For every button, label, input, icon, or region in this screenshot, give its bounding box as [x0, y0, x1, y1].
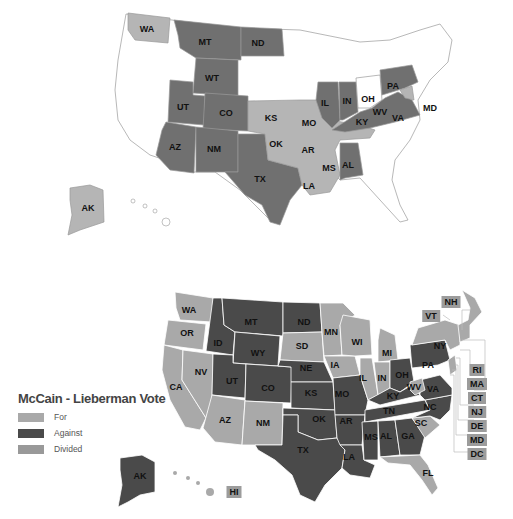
box-nh: NH [442, 296, 461, 308]
top-label-la: LA [303, 181, 315, 191]
top-label-md: MD [423, 103, 437, 113]
top-label-va: VA [392, 113, 404, 123]
top-label-al: AL [342, 160, 354, 170]
top-label-wa: WA [140, 24, 155, 34]
label-ut: UT [226, 376, 238, 386]
label-wa: WA [182, 305, 197, 315]
top-label-ak: AK [82, 203, 95, 213]
top-label-ks: KS [265, 113, 278, 123]
label-sd: SD [296, 341, 309, 351]
box-ma: MA [467, 378, 487, 390]
top-label-ut: UT [177, 102, 189, 112]
top-label-nd: ND [252, 38, 265, 48]
top-label-in: IN [343, 96, 352, 106]
label-wi: WI [352, 337, 363, 347]
label-sc: SC [415, 418, 428, 428]
label-ny: NY [434, 341, 447, 351]
box-md: MD [467, 434, 487, 446]
label-ca: CA [170, 382, 183, 392]
box-dc: DC [468, 448, 487, 460]
top-label-ms: MS [322, 163, 336, 173]
label-al: AL [380, 431, 392, 441]
legend-item-divided: Divided [18, 444, 165, 454]
box-vt: VT [422, 310, 440, 322]
label-wy: WY [251, 348, 266, 358]
label-ak: AK [134, 471, 147, 481]
legend-item-for: For [18, 412, 165, 422]
legend-label-for: For [54, 412, 67, 422]
top-label-ky: KY [356, 117, 369, 127]
legend-label-against: Against [54, 428, 82, 438]
label-il: IL [359, 373, 367, 383]
label-va: VA [427, 384, 439, 394]
top-label-pa: PA [387, 81, 399, 91]
label-mo: MO [335, 389, 350, 399]
box-nj: NJ [468, 406, 486, 418]
top-label-oh: OH [361, 94, 375, 104]
legend-title: McCain - Lieberman Vote [18, 391, 165, 406]
label-nc: NC [424, 402, 437, 412]
box-hi: HI [227, 486, 242, 498]
legend-swatch-against [18, 429, 44, 438]
top-label-wv: WV [373, 107, 388, 117]
label-id: ID [214, 338, 223, 348]
label-tx: TX [297, 445, 309, 455]
top-label-il: IL [321, 98, 329, 108]
top-label-tx: TX [254, 174, 266, 184]
top-label-mt: MT [199, 37, 212, 47]
label-wv: WV [407, 382, 422, 392]
box-ct: CT [468, 392, 486, 404]
label-or: OR [180, 328, 194, 338]
legend-swatch-for [18, 413, 44, 422]
label-nd: ND [298, 317, 311, 327]
top-label-mo: MO [302, 118, 317, 128]
label-ks: KS [305, 388, 318, 398]
label-co: CO [261, 383, 275, 393]
legend-label-divided: Divided [54, 444, 82, 454]
label-nv: NV [195, 367, 208, 377]
top-label-wy: WT [205, 73, 219, 83]
label-ok: OK [312, 414, 326, 424]
label-nm: NM [256, 418, 270, 428]
top-label-co: CO [219, 108, 233, 118]
label-ky: KY [387, 391, 400, 401]
label-ia: IA [331, 360, 340, 370]
label-pa: PA [422, 360, 434, 370]
top-label-az: AZ [169, 142, 181, 152]
top-label-nm: NM [207, 144, 221, 154]
label-az: AZ [219, 415, 231, 425]
label-ar: AR [340, 416, 353, 426]
top-us-map: WA MT ND WT UT CO AZ NM TX KS OK MO AR L… [0, 0, 513, 260]
top-label-ar: AR [302, 145, 315, 155]
label-mi: MI [382, 348, 392, 358]
box-ri: RI [470, 364, 485, 376]
label-oh: OH [395, 370, 409, 380]
legend-item-against: Against [18, 428, 165, 438]
label-mt: MT [245, 317, 258, 327]
label-ms: MS [364, 432, 378, 442]
label-la: LA [343, 452, 355, 462]
box-de: DE [468, 420, 487, 432]
legend: McCain - Lieberman Vote For Against Divi… [18, 391, 165, 454]
label-fl: FL [423, 468, 434, 478]
label-ga: GA [401, 431, 415, 441]
label-in: IN [378, 373, 387, 383]
top-label-ok: OK [269, 139, 283, 149]
legend-swatch-divided [18, 445, 44, 454]
label-tn: TN [383, 406, 395, 416]
label-mn: MN [324, 327, 338, 337]
label-ne: NE [300, 363, 313, 373]
